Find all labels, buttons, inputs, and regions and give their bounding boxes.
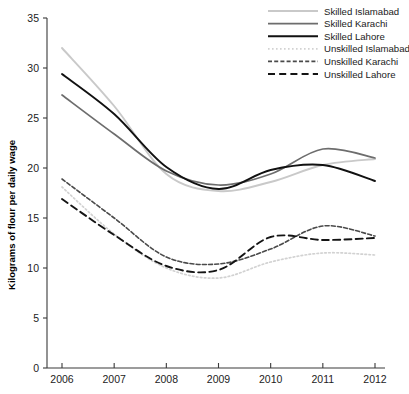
y-axis-title-text: Kilograms of flour per daily wage <box>6 140 17 290</box>
x-tick-label: 2012 <box>363 373 387 385</box>
legend-label: Unskilled Islamabad <box>324 43 409 54</box>
x-tick-label: 2008 <box>155 373 179 385</box>
series-line-skilled-lahore <box>62 74 375 189</box>
y-tick-label: 10 <box>27 262 39 274</box>
legend-label: Unskilled Karachi <box>324 56 398 67</box>
x-tick-label: 2010 <box>259 373 283 385</box>
y-tick-label: 15 <box>27 212 39 224</box>
y-axis-title: Kilograms of flour per daily wage <box>6 140 17 290</box>
y-tick-label: 0 <box>33 362 39 374</box>
chart-canvas: Kilograms of flour per daily wage 051015… <box>0 0 409 394</box>
x-tick-label: 2006 <box>50 373 74 385</box>
legend-label: Skilled Karachi <box>324 18 387 29</box>
y-tick-label: 35 <box>27 12 39 24</box>
legend-label: Skilled Islamabad <box>324 6 399 17</box>
y-axis-ticks: 05101520253035 <box>27 12 47 374</box>
y-tick-label: 20 <box>27 162 39 174</box>
legend-label: Skilled Lahore <box>324 31 385 42</box>
chart-legend: Skilled IslamabadSkilled KarachiSkilled … <box>268 6 409 80</box>
x-tick-label: 2007 <box>102 373 126 385</box>
series-lines <box>62 48 375 278</box>
y-tick-label: 5 <box>33 312 39 324</box>
series-line-unskilled-lahore <box>62 199 375 272</box>
y-tick-label: 25 <box>27 112 39 124</box>
x-axis-ticks: 2006200720082009201020112012 <box>50 363 387 385</box>
y-tick-label: 30 <box>27 62 39 74</box>
x-tick-label: 2011 <box>312 373 335 385</box>
x-tick-label: 2009 <box>207 373 231 385</box>
line-chart: Kilograms of flour per daily wage 051015… <box>0 0 409 394</box>
legend-label: Unskilled Lahore <box>324 69 395 80</box>
